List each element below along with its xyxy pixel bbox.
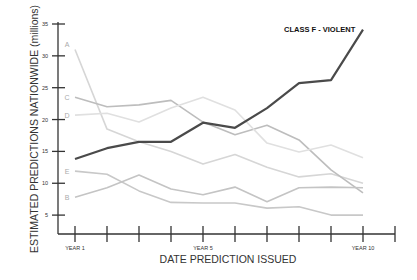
series-f-annotation: CLASS F - VIOLENT xyxy=(284,25,356,34)
series-d-label: D xyxy=(64,112,69,119)
series-e-label: E xyxy=(65,168,70,175)
y-tick-label: 15 xyxy=(42,148,48,154)
chart-labels: ACDEB xyxy=(64,41,69,200)
y-axis-title: ESTIMATED PREDICTIONS NATIONWIDE (millio… xyxy=(28,5,40,253)
series-c-label: C xyxy=(64,94,69,101)
series-a-label: A xyxy=(65,41,70,48)
y-tick-label: 30 xyxy=(42,53,48,59)
x-tick-label: YEAR 10 xyxy=(352,245,375,251)
chart-series xyxy=(75,30,363,215)
line-chart: 5101520253035YEAR 1YEAR 5YEAR 10 ACDEB E… xyxy=(0,0,417,280)
series-e-line xyxy=(75,171,363,215)
x-axis-title: DATE PREDICTION ISSUED xyxy=(160,253,297,265)
x-tick-label: YEAR 1 xyxy=(65,245,85,251)
x-tick-label: YEAR 5 xyxy=(193,245,213,251)
chart-axes: 5101520253035YEAR 1YEAR 5YEAR 10 xyxy=(42,21,395,251)
series-b-line xyxy=(75,175,363,202)
y-tick-label: 20 xyxy=(42,117,48,123)
series-f-line xyxy=(75,30,363,159)
series-b-label: B xyxy=(65,194,70,201)
y-tick-label: 10 xyxy=(42,180,48,186)
y-tick-label: 35 xyxy=(42,21,48,27)
y-tick-label: 5 xyxy=(45,212,48,218)
y-tick-label: 25 xyxy=(42,85,48,91)
